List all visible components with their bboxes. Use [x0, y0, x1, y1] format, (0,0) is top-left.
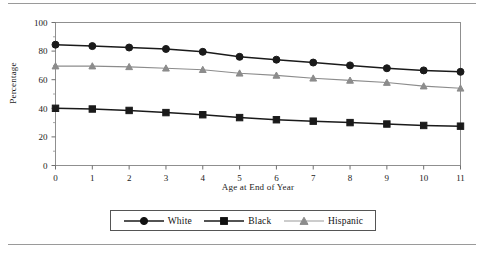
legend-swatch-circle-icon [123, 214, 165, 228]
data-point-white [383, 65, 390, 72]
x-tick-label: 8 [348, 173, 353, 183]
y-tick-label: 20 [39, 132, 49, 142]
x-tick-label: 7 [311, 173, 316, 183]
x-tick-label: 11 [456, 173, 465, 183]
legend-swatch-triangle-icon [283, 214, 325, 228]
plot-area: 02040608010001234567891011 Percentage Ag… [0, 0, 484, 200]
x-tick-label: 3 [164, 173, 169, 183]
data-point-black [126, 107, 132, 113]
figure: 02040608010001234567891011 Percentage Ag… [0, 0, 484, 254]
data-point-white [236, 53, 243, 60]
y-tick-label: 0 [43, 161, 48, 171]
data-point-white [310, 59, 317, 66]
data-point-white [457, 68, 464, 75]
data-point-black [310, 118, 316, 124]
data-point-black [384, 121, 390, 127]
legend-label-hispanic: Hispanic [328, 216, 363, 226]
data-point-black [273, 117, 279, 123]
x-tick-label: 1 [90, 173, 95, 183]
plot-frame [56, 23, 461, 166]
x-tick-label: 5 [237, 173, 242, 183]
data-point-black [163, 109, 169, 115]
bottom-divider-rule [8, 244, 476, 245]
data-point-white [273, 56, 280, 63]
data-point-black [347, 119, 353, 125]
data-point-black [457, 123, 463, 129]
data-point-white [52, 41, 59, 48]
data-point-white [199, 48, 206, 55]
y-tick-label: 40 [39, 104, 49, 114]
x-tick-label: 6 [274, 173, 279, 183]
legend-item-white[interactable]: White [123, 214, 192, 228]
data-point-black [52, 105, 58, 111]
x-tick-label: 10 [419, 173, 429, 183]
y-axis-label: Percentage [8, 48, 18, 118]
series-line-white [56, 45, 461, 72]
y-tick-label: 80 [39, 46, 49, 56]
data-point-black [89, 106, 95, 112]
y-tick-label: 100 [34, 18, 48, 28]
data-point-white [420, 67, 427, 74]
x-tick-label: 9 [385, 173, 390, 183]
series-line-black [56, 108, 461, 126]
data-point-black [200, 112, 206, 118]
x-tick-label: 4 [201, 173, 206, 183]
line-chart: 02040608010001234567891011 [0, 0, 484, 200]
data-point-white [89, 43, 96, 50]
legend-label-white: White [168, 216, 192, 226]
x-tick-label: 2 [127, 173, 132, 183]
legend-item-black[interactable]: Black [203, 214, 271, 228]
data-point-black [420, 122, 426, 128]
x-tick-label: 0 [53, 173, 58, 183]
x-axis-label: Age at End of Year [55, 182, 461, 192]
y-tick-label: 60 [39, 75, 49, 85]
legend-swatch-square-icon [203, 214, 245, 228]
data-point-white [126, 44, 133, 51]
data-point-white [347, 62, 354, 69]
legend-label-black: Black [248, 216, 271, 226]
legend-item-hispanic[interactable]: Hispanic [283, 214, 363, 228]
data-point-white [162, 45, 169, 52]
data-point-black [236, 114, 242, 120]
chart-legend: White Black Hispanic [110, 210, 376, 231]
